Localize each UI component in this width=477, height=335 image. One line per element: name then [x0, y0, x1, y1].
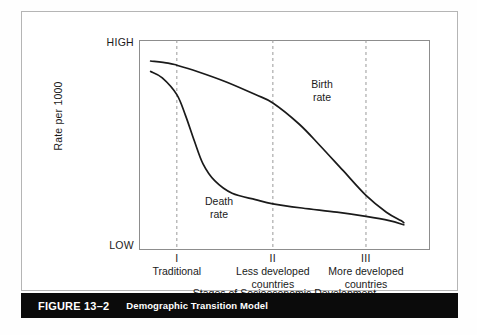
chart-canvas [139, 40, 430, 250]
y-axis-title: Rate per 1000 [52, 81, 64, 150]
figure-caption-bar: FIGURE 13–2 Demographic Transition Model [21, 293, 458, 318]
stage-label-group-III: IIIMore developed countries [306, 252, 426, 290]
y-axis-title-wrapper: Rate per 1000 [50, 51, 66, 181]
y-axis-low-label: LOW [66, 239, 134, 251]
figure-title: Demographic Transition Model [126, 300, 268, 311]
birth-rate-curve-label: Birth rate [290, 78, 354, 104]
stage-numeral-III: III [306, 252, 426, 265]
y-axis-high-label: HIGH [66, 36, 134, 48]
death-rate-curve-label: Death rate [188, 195, 250, 221]
figure-number: FIGURE 13–2 [38, 300, 109, 312]
figure-container: HIGH LOW Rate per 1000 ITraditionalIILes… [0, 0, 477, 335]
figure-card: HIGH LOW Rate per 1000 ITraditionalIILes… [21, 11, 458, 291]
